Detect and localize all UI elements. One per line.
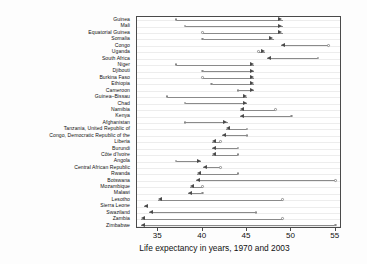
table-row	[137, 94, 340, 100]
marker-2003	[226, 126, 230, 130]
marker-1970	[257, 50, 260, 53]
marker-2003	[212, 139, 216, 143]
marker-2003	[250, 75, 254, 79]
marker-2003	[278, 17, 282, 21]
marker-2003	[261, 49, 265, 53]
marker-2003	[278, 30, 282, 34]
x-tick-label: 55	[330, 231, 339, 240]
table-row	[137, 43, 340, 49]
y-axis-label: Swaziland	[106, 209, 130, 215]
change-segment	[240, 110, 276, 111]
y-axis-label: Central African Republic	[74, 164, 130, 170]
y-axis-label: Tanzania, United Republic of	[64, 125, 130, 131]
marker-1970	[237, 172, 240, 175]
table-row	[137, 101, 340, 107]
change-segment	[185, 26, 283, 27]
marker-2003	[188, 191, 192, 195]
change-segment	[176, 20, 282, 21]
table-row	[137, 126, 340, 132]
table-row	[137, 81, 340, 87]
change-segment	[141, 219, 283, 220]
table-row	[137, 75, 340, 81]
marker-1970	[201, 185, 204, 188]
change-segment	[141, 225, 336, 226]
y-axis-country-labels: GuineaMaliEquatorial GuineaSomaliaCongoU…	[0, 16, 133, 228]
marker-2003	[212, 146, 216, 150]
marker-2003	[243, 101, 247, 105]
table-row	[137, 203, 340, 209]
table-row	[137, 171, 340, 177]
x-tick-label: 50	[286, 231, 295, 240]
marker-1970	[334, 179, 337, 182]
table-row	[137, 178, 340, 184]
y-axis-label: Angola	[114, 157, 130, 163]
marker-2003	[278, 24, 282, 28]
marker-2003	[212, 152, 216, 156]
y-axis-label: Namibia	[111, 106, 130, 112]
change-segment	[203, 39, 274, 40]
change-segment	[149, 212, 255, 213]
change-segment	[185, 122, 228, 123]
y-axis-label: Botswana	[107, 177, 130, 183]
y-axis-label: Zimbabwe	[106, 222, 130, 228]
change-segment	[196, 180, 336, 181]
change-segment	[185, 103, 247, 104]
marker-1970	[201, 31, 204, 34]
x-axis-title-text: Life expectancy in years, 1970 and 2003	[77, 243, 289, 253]
change-segment	[212, 84, 255, 85]
y-axis-label: Uganda	[112, 48, 130, 54]
plot-area	[136, 16, 341, 228]
marker-1970	[281, 198, 284, 201]
y-axis-label: Congo	[115, 42, 130, 48]
marker-1970	[219, 140, 222, 143]
table-row	[137, 216, 340, 222]
marker-2003	[141, 223, 145, 227]
y-axis-label: Côte d'Ivoire	[101, 151, 130, 157]
change-segment	[158, 200, 282, 201]
marker-2003	[223, 120, 227, 124]
marker-1970	[219, 166, 222, 169]
table-row	[137, 113, 340, 119]
y-axis-label: Guinea–Bissau	[95, 93, 130, 99]
y-axis-label: Congo, Democratic Republic of the	[49, 132, 130, 138]
marker-1970	[290, 115, 293, 118]
marker-2003	[281, 43, 285, 47]
marker-2003	[240, 107, 244, 111]
marker-2003	[240, 114, 244, 118]
table-row	[137, 88, 340, 94]
marker-2003	[250, 69, 254, 73]
table-row	[137, 56, 340, 62]
table-row	[137, 184, 340, 190]
marker-2003	[267, 56, 271, 60]
marker-1970	[210, 83, 213, 86]
marker-2003	[243, 94, 247, 98]
marker-2003	[250, 88, 254, 92]
marker-2003	[203, 165, 207, 169]
y-axis-label: Kenya	[115, 112, 130, 118]
table-row	[137, 17, 340, 23]
marker-2003	[222, 133, 226, 137]
y-axis-label: Liberia	[114, 138, 130, 144]
table-row	[137, 49, 340, 55]
y-axis-label: Ethiopia	[111, 80, 130, 86]
x-tick-label: 35	[153, 231, 162, 240]
y-axis-label: Djibouti	[113, 67, 130, 73]
y-axis-label: Rwanda	[111, 170, 130, 176]
table-row	[137, 36, 340, 42]
arrow-rows	[137, 17, 340, 227]
table-row	[137, 158, 340, 164]
table-row	[137, 68, 340, 74]
change-segment	[267, 58, 318, 59]
x-tick-label: 45	[242, 231, 251, 240]
table-row	[137, 107, 340, 113]
table-row	[137, 165, 340, 171]
y-axis-label: Zambia	[113, 215, 130, 221]
y-axis-label: Burkina Faso	[99, 74, 130, 80]
change-segment	[203, 71, 254, 72]
change-segment	[281, 45, 329, 46]
change-segment	[240, 116, 291, 117]
table-row	[137, 210, 340, 216]
x-axis-title: Life expectancy in years, 1970 and 2003	[0, 243, 367, 253]
y-axis-label: Cameroon	[106, 87, 130, 93]
marker-1970	[274, 108, 277, 111]
